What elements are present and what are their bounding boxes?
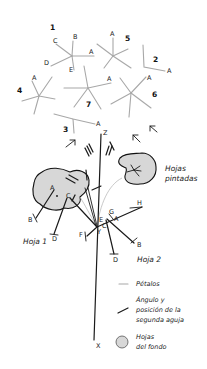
legend-needle-1: Ángulo y xyxy=(135,295,165,304)
petal-label-a: A xyxy=(32,74,37,82)
background-leaf-1 xyxy=(33,168,89,210)
stem-label-x: X xyxy=(96,342,101,350)
leaf-2-label-h: H xyxy=(137,199,142,207)
flower-3: 3 A xyxy=(54,114,101,134)
petal-label-a: A xyxy=(96,120,101,128)
arrow-icon xyxy=(66,140,75,147)
leaf-2-label-c: C xyxy=(102,222,107,230)
leaf-2-label-a: A xyxy=(114,215,119,223)
petal-label-c: C xyxy=(53,37,58,45)
arrow-icon xyxy=(133,135,140,142)
petal-label-e: E xyxy=(69,66,73,74)
flower-4: 4 A xyxy=(17,74,55,114)
leaf-2-label-d: D xyxy=(113,256,118,264)
flower-5: 5 A xyxy=(97,30,131,68)
flower-number: 6 xyxy=(152,90,157,99)
leaf-2-label-f: F xyxy=(79,231,83,239)
petal-label-a: A xyxy=(107,75,112,83)
flower-diagram: 1 A B C D E 5 A 2 A 4 A 7 xyxy=(0,0,207,369)
arrow-icon xyxy=(150,126,157,132)
leaf-1-label-a: A xyxy=(50,184,55,192)
petal-label-a: A xyxy=(89,48,94,56)
flower-number: 4 xyxy=(17,86,22,95)
petal-label-a: A xyxy=(147,74,152,82)
painted-leaves-label-1: Hojas xyxy=(165,164,186,173)
flower-number: 7 xyxy=(86,100,91,109)
legend-bg-leaves-1: Hojas xyxy=(136,333,155,341)
leaf-2-structure: E G H A C F B D xyxy=(79,199,142,264)
petal-label-b: B xyxy=(73,33,77,41)
stem-label-y: Y xyxy=(96,228,101,236)
flower-1: 1 A B C D E xyxy=(44,23,94,74)
legend-needle-3: segunda aguja xyxy=(136,316,184,324)
petal-label-d: D xyxy=(44,59,49,67)
painted-leaf xyxy=(119,153,156,184)
petal-label-a: A xyxy=(110,30,115,38)
legend-needle-2: posición de la xyxy=(135,306,181,314)
leaf-1-label-c: C xyxy=(66,192,71,200)
flower-2: 2 A xyxy=(143,45,172,75)
petal-label-a: A xyxy=(167,67,172,75)
leaf-1-label-b: B xyxy=(28,216,32,224)
legend-petals: Pétalos xyxy=(136,280,160,288)
leaf-1-label-d: D xyxy=(52,235,57,243)
flower-number: 5 xyxy=(125,34,130,43)
legend-bg-leaves-2: del fondo xyxy=(136,343,167,351)
stem: Z X Y xyxy=(94,129,108,350)
leaf-legend-icon xyxy=(116,336,128,348)
leaf-2-label-b: B xyxy=(137,241,141,249)
flower-6: 6 A xyxy=(111,74,157,117)
flower-number: 3 xyxy=(63,125,68,134)
flower-number: 2 xyxy=(153,55,158,64)
stem-label-z: Z xyxy=(103,129,108,137)
painted-leaves-label-2: pintadas xyxy=(164,174,197,183)
leaf-1-title: Hoja 1 xyxy=(23,237,47,246)
legend: Pétalos Ángulo y posición de la segunda … xyxy=(116,280,184,351)
flower-number: 1 xyxy=(50,23,55,32)
leaf-2-title: Hoja 2 xyxy=(137,255,161,264)
needle-legend-icon xyxy=(118,308,128,313)
